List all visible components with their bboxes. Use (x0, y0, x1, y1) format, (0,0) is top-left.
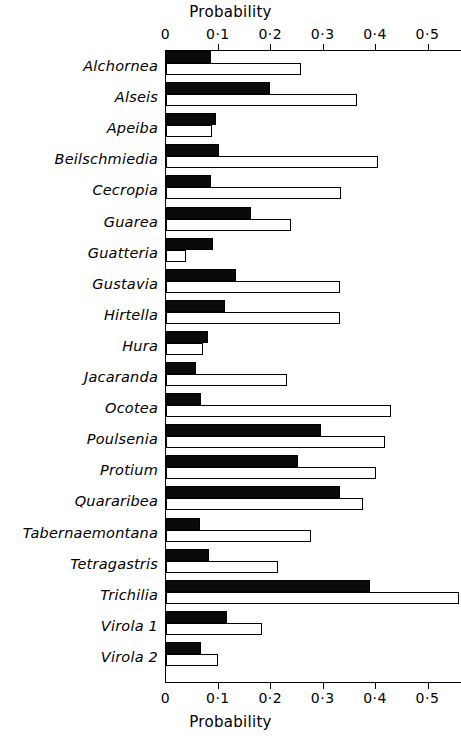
species-row: Guarea (0, 207, 461, 238)
bar-open-alchornea (166, 63, 301, 75)
species-label-alchornea: Alchornea (0, 58, 158, 74)
bar-open-jacaranda (166, 374, 287, 386)
tick-label-top-1: 0·1 (198, 26, 238, 42)
species-row: Gustavia (0, 269, 461, 300)
species-label-trichilia: Trichilia (0, 587, 158, 603)
species-row: Beilschmiedia (0, 144, 461, 175)
species-label-poulsenia: Poulsenia (0, 431, 158, 447)
species-row: Protium (0, 455, 461, 486)
species-label-ocotea: Ocotea (0, 400, 158, 416)
species-row: Ocotea (0, 393, 461, 424)
species-row: Virola 1 (0, 611, 461, 642)
bar-open-tabernaemontana (166, 530, 311, 542)
bar-filled-alchornea (166, 51, 211, 63)
tick-mark-bottom-2 (270, 682, 271, 689)
species-label-jacaranda: Jacaranda (0, 369, 158, 385)
species-row: Guatteria (0, 238, 461, 269)
bar-filled-trichilia (166, 580, 370, 592)
species-label-guatteria: Guatteria (0, 245, 158, 261)
bar-open-ocotea (166, 405, 391, 417)
species-label-beilschmiedia: Beilschmiedia (0, 151, 158, 167)
bar-filled-guatteria (166, 238, 213, 250)
species-label-tetragastris: Tetragastris (0, 556, 158, 572)
bar-filled-tetragastris (166, 549, 209, 561)
species-label-protium: Protium (0, 462, 158, 478)
species-row: Poulsenia (0, 424, 461, 455)
bar-filled-poulsenia (166, 424, 321, 436)
probability-bar-chart: Probability 00·10·20·30·40·5 AlchorneaAl… (0, 0, 461, 738)
tick-mark-bottom-1 (218, 682, 219, 689)
bar-open-trichilia (166, 592, 459, 604)
species-label-quararibea: Quararibea (0, 493, 158, 509)
bar-open-apeiba (166, 125, 212, 137)
species-row: Jacaranda (0, 362, 461, 393)
species-label-virola-2: Virola 2 (0, 649, 158, 665)
species-label-cecropia: Cecropia (0, 182, 158, 198)
tick-label-bottom-1: 0·1 (198, 690, 238, 706)
bar-filled-gustavia (166, 269, 236, 281)
tick-label-top-3: 0·3 (303, 26, 343, 42)
bar-filled-cecropia (166, 175, 211, 187)
bar-open-guatteria (166, 250, 186, 262)
species-label-virola-1: Virola 1 (0, 618, 158, 634)
bar-filled-apeiba (166, 113, 216, 125)
bar-filled-ocotea (166, 393, 201, 405)
bar-open-alseis (166, 94, 357, 106)
bar-open-virola-2 (166, 654, 218, 666)
bar-filled-guarea (166, 207, 251, 219)
bar-filled-beilschmiedia (166, 144, 219, 156)
species-label-gustavia: Gustavia (0, 276, 158, 292)
bar-filled-jacaranda (166, 362, 196, 374)
bar-open-poulsenia (166, 436, 385, 448)
tick-mark-bottom-5 (428, 682, 429, 689)
bar-filled-hirtella (166, 300, 225, 312)
bar-filled-protium (166, 455, 298, 467)
tick-label-top-5: 0·5 (408, 26, 448, 42)
species-label-guarea: Guarea (0, 214, 158, 230)
tick-mark-bottom-4 (375, 682, 376, 689)
species-label-tabernaemontana: Tabernaemontana (0, 525, 158, 541)
species-label-apeiba: Apeiba (0, 120, 158, 136)
tick-label-bottom-2: 0·2 (250, 690, 290, 706)
bar-filled-tabernaemontana (166, 518, 200, 530)
tick-mark-bottom-3 (323, 682, 324, 689)
bar-open-cecropia (166, 187, 341, 199)
tick-label-bottom-4: 0·4 (355, 690, 395, 706)
bar-open-hura (166, 343, 203, 355)
species-row: Alchornea (0, 51, 461, 82)
species-row: Hirtella (0, 300, 461, 331)
bar-open-tetragastris (166, 561, 278, 573)
bar-filled-quararibea (166, 486, 340, 498)
bottom-axis-title: Probability (0, 713, 461, 731)
species-row: Cecropia (0, 175, 461, 206)
bar-filled-virola-2 (166, 642, 201, 654)
tick-label-top-2: 0·2 (250, 26, 290, 42)
tick-label-bottom-0: 0 (146, 690, 186, 706)
bar-open-beilschmiedia (166, 156, 378, 168)
bar-filled-alseis (166, 82, 270, 94)
species-label-hirtella: Hirtella (0, 307, 158, 323)
bar-open-virola-1 (166, 623, 262, 635)
tick-label-top-0: 0 (146, 26, 186, 42)
bar-filled-virola-1 (166, 611, 227, 623)
bar-open-gustavia (166, 281, 340, 293)
species-label-alseis: Alseis (0, 89, 158, 105)
species-row: Apeiba (0, 113, 461, 144)
bar-filled-hura (166, 331, 208, 343)
species-row: Alseis (0, 82, 461, 113)
tick-label-bottom-3: 0·3 (303, 690, 343, 706)
species-row: Tabernaemontana (0, 518, 461, 549)
species-label-hura: Hura (0, 338, 158, 354)
bottom-axis-line (165, 682, 461, 683)
bar-open-quararibea (166, 498, 363, 510)
species-row: Quararibea (0, 486, 461, 517)
top-axis-title: Probability (0, 3, 461, 21)
tick-label-bottom-5: 0·5 (408, 690, 448, 706)
bar-open-guarea (166, 219, 291, 231)
tick-label-top-4: 0·4 (355, 26, 395, 42)
species-row: Trichilia (0, 580, 461, 611)
species-row: Hura (0, 331, 461, 362)
bar-open-hirtella (166, 312, 340, 324)
species-row: Virola 2 (0, 642, 461, 673)
bar-open-protium (166, 467, 376, 479)
